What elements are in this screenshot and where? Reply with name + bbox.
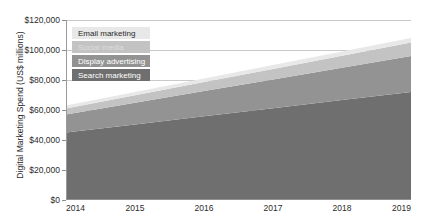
x-axis-tick-labels: 201420152016201720182019 — [66, 203, 411, 217]
legend-item-display-advertising[interactable]: Display advertising — [72, 55, 150, 67]
legend-item-label: Email marketing — [78, 29, 135, 38]
x-axis-tick-label: 2017 — [264, 203, 283, 213]
legend-item-label: Search marketing — [78, 71, 141, 80]
y-axis-tick-label: $80,000 — [2, 75, 60, 85]
legend: Email marketingSocial mediaDisplay adver… — [72, 27, 150, 81]
x-axis-tick-label: 2019 — [392, 203, 411, 213]
y-axis-tick-labels: $0$20,000$40,000$60,000$80,000$100,000$1… — [0, 20, 60, 200]
x-axis-tick-label: 2014 — [66, 203, 85, 213]
legend-item-label: Social media — [78, 43, 124, 52]
legend-item-search-marketing[interactable]: Search marketing — [72, 69, 150, 81]
legend-item-social-media[interactable]: Social media — [72, 41, 150, 53]
legend-item-email-marketing[interactable]: Email marketing — [72, 27, 150, 39]
stacked-area-chart: Digital Marketing Spend (US$ millions) $… — [0, 0, 424, 221]
x-axis-tick-label: 2015 — [126, 203, 145, 213]
x-axis-tick-label: 2016 — [195, 203, 214, 213]
legend-item-label: Display advertising — [78, 57, 145, 66]
y-axis-tick-label: $60,000 — [2, 105, 60, 115]
y-axis-tick-label: $100,000 — [2, 45, 60, 55]
y-axis-tick-label: $0 — [2, 195, 60, 205]
y-axis-tick-mark — [62, 200, 66, 201]
y-axis-tick-label: $120,000 — [2, 15, 60, 25]
x-axis-tick-label: 2018 — [333, 203, 352, 213]
y-axis-tick-label: $20,000 — [2, 165, 60, 175]
y-axis-tick-label: $40,000 — [2, 135, 60, 145]
